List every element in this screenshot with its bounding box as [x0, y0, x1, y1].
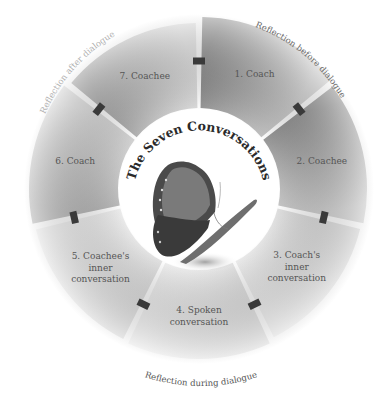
- segment-label-7: 7. Coachee: [119, 71, 170, 81]
- segment-label-4: 4. Spokenconversation: [170, 305, 229, 327]
- ring-diagram: The Seven Conversations 1. Coach2. Coach…: [0, 0, 378, 399]
- segment-label-1: 1. Coach: [235, 69, 275, 79]
- segment-tab-1: [193, 58, 205, 65]
- arc-label-reflection-during: Reflection during dialogue: [144, 369, 258, 388]
- seven-conversations-diagram: The Seven Conversations 1. Coach2. Coach…: [0, 0, 378, 399]
- segment-label-2: 2. Coachee: [297, 156, 348, 166]
- segment-label-6: 6. Coach: [55, 156, 95, 166]
